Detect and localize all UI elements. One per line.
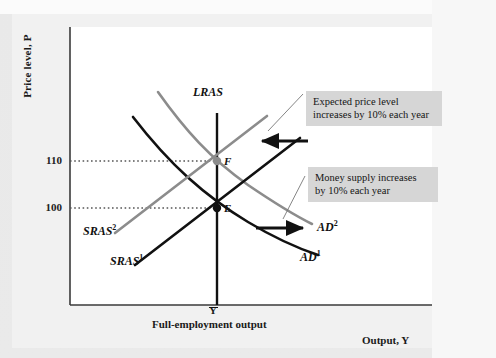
curve-label-lras: LRAS	[193, 85, 223, 100]
curve-label-ad2: AD2	[317, 219, 338, 235]
curve-ad2	[158, 92, 312, 224]
callout-money-supply-line2: by 10% each year	[315, 184, 431, 197]
point-marker-F	[213, 157, 221, 165]
y-axis-title: Price level, P	[21, 11, 33, 121]
curve-ad1	[133, 117, 318, 255]
x-axis-title-center: Full-employment output	[152, 318, 267, 330]
point-label-F: F	[224, 155, 231, 167]
curve-label-sras2: SRAS2	[83, 223, 116, 239]
y-tick-110: 110	[28, 154, 62, 166]
callout-expected-price-level-line1: Expected price level	[313, 95, 435, 108]
curve-label-ad1: AD1	[300, 249, 321, 265]
y-bar-overline	[209, 307, 218, 308]
leader-line-money-supply	[283, 176, 305, 219]
figure-container: Price level, P Full-employment output Ou…	[0, 0, 496, 358]
curve-label-sras1: SRAS1	[110, 253, 143, 269]
curve-label-sras1-text: SRAS	[110, 254, 139, 268]
curve-label-sras2-text: SRAS	[83, 224, 112, 238]
curve-label-ad2-text: AD	[317, 220, 334, 234]
curve-label-sras2-sup: 2	[112, 223, 116, 232]
callout-money-supply-line1: Money supply increases	[315, 171, 431, 184]
point-label-E: E	[224, 202, 231, 214]
x-tick-y-bar: Y	[209, 305, 218, 316]
curve-label-sras1-sup: 1	[139, 253, 143, 262]
curve-label-ad1-text: AD	[300, 250, 317, 264]
x-axis-title-right: Output, Y	[362, 334, 409, 346]
x-tick-y-bar-text: Y	[209, 304, 217, 316]
callout-expected-price-level: Expected price level increases by 10% ea…	[306, 91, 442, 126]
callout-money-supply: Money supply increases by 10% each year	[308, 167, 438, 202]
curve-label-ad1-sup: 1	[317, 249, 321, 258]
leader-line-expected-price	[268, 94, 303, 131]
callout-expected-price-level-line2: increases by 10% each year	[313, 108, 435, 121]
curve-label-ad2-sup: 2	[334, 219, 338, 228]
point-marker-E	[213, 204, 221, 212]
y-tick-100: 100	[28, 201, 62, 213]
